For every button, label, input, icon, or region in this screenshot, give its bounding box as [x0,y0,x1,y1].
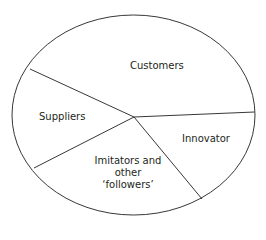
imitators-line-3: ‘followers’ [88,179,168,191]
slice-label-customers: Customers [130,60,184,72]
slice-label-imitators: Imitators and other ‘followers’ [88,155,168,191]
slice-label-suppliers: Suppliers [39,111,85,123]
imitators-line-2: other [88,167,168,179]
imitators-line-1: Imitators and [88,155,168,167]
slice-label-innovator: Innovator [182,133,230,145]
